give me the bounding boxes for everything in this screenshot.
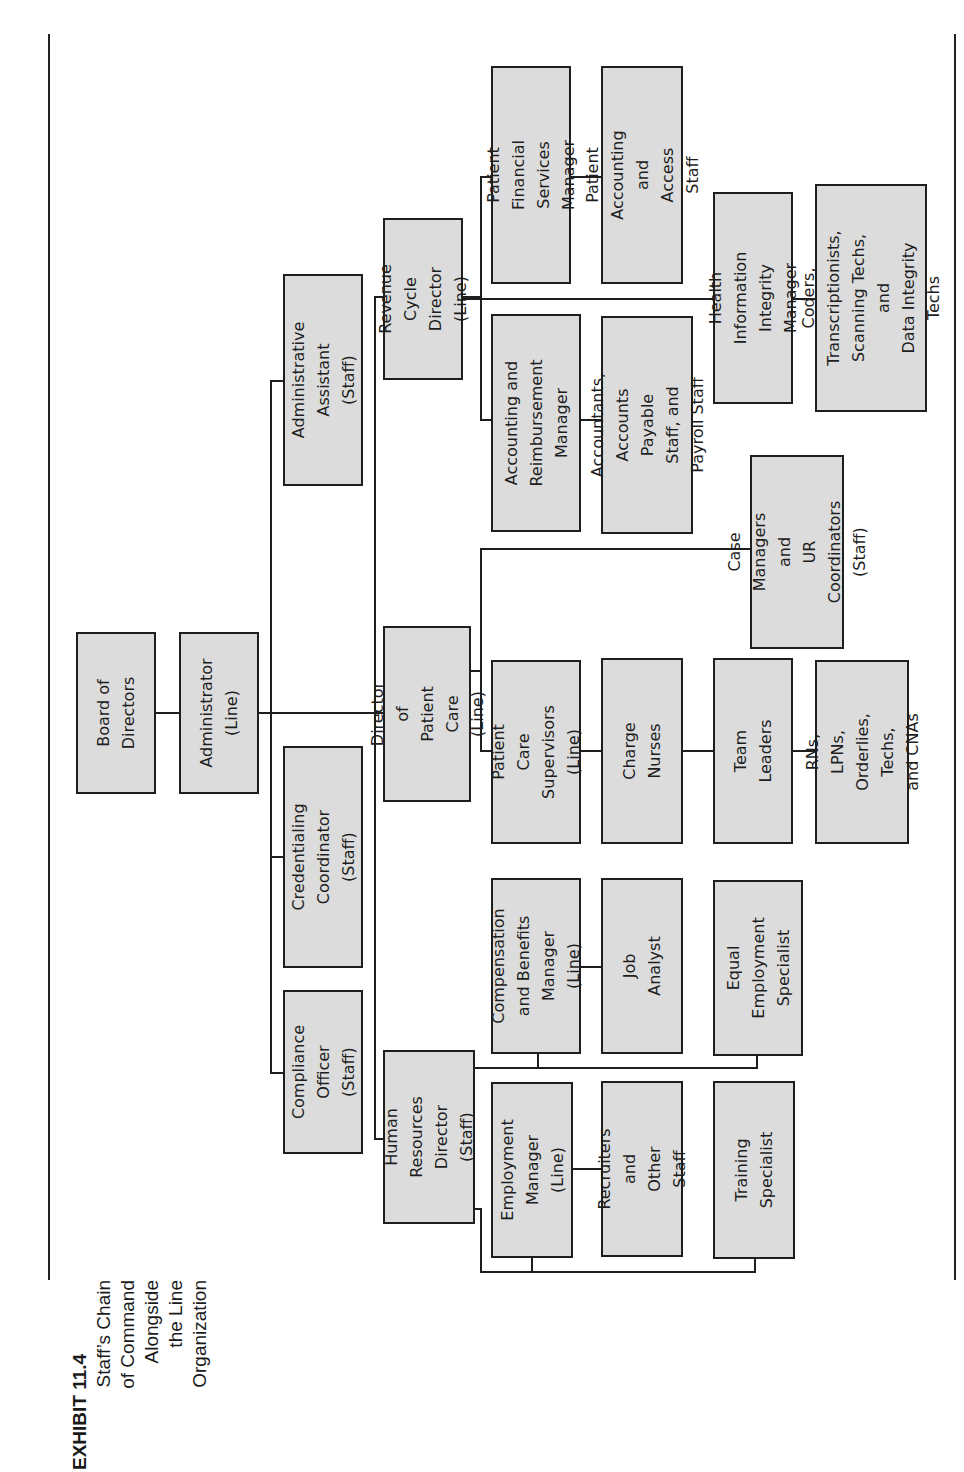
node-label: Patient Financial Services Manager xyxy=(481,140,581,210)
node-label: Training Specialist xyxy=(729,1132,779,1209)
connector xyxy=(480,548,752,550)
node-credentialing-coordinator: Credentialing Coordinator (Staff) xyxy=(283,746,363,968)
connector xyxy=(462,298,714,300)
node-rns-lpns-orderlies: RNs, LPNs, Orderlies, Techs, and CNAs xyxy=(815,660,909,844)
node-label: Team Leaders xyxy=(728,719,778,782)
connector xyxy=(754,1258,756,1272)
node-health-information-integrity-manager: Health Information Integrity Manager xyxy=(713,192,793,404)
node-label: Administrative Assistant (Staff) xyxy=(286,322,361,438)
node-label: Health Information Integrity Manager xyxy=(703,252,803,345)
node-label: Job Analyst xyxy=(617,936,667,995)
node-label: RNs, LPNs, Orderlies, Techs, and CNAs xyxy=(800,713,925,791)
node-accounting-reimbursement-manager: Accounting and Reimbursement Manager xyxy=(491,314,581,532)
node-label: Equal Employment Specialist xyxy=(721,917,796,1018)
exhibit-title: EXHIBIT 11.4 xyxy=(68,1280,92,1470)
connector xyxy=(474,1067,756,1069)
node-label: Board of Directors xyxy=(91,677,141,750)
exhibit-subtitle-line-4: the Line xyxy=(164,1280,188,1470)
node-label: Recruiters and Other Staff xyxy=(592,1128,692,1209)
node-label: Compensation and Benefits Manager (Line) xyxy=(486,908,586,1023)
node-charge-nurses: Charge Nurses xyxy=(601,658,683,844)
exhibit-subtitle-line-5: Organization xyxy=(188,1280,212,1470)
connector xyxy=(682,750,714,752)
exhibit-subtitle-line-2: of Command xyxy=(116,1280,140,1470)
node-team-leaders: Team Leaders xyxy=(713,658,793,844)
node-label: Credentialing Coordinator (Staff) xyxy=(286,803,361,910)
node-revenue-cycle-director: Revenue Cycle Director (Line) xyxy=(383,218,463,380)
node-administrator: Administrator (Line) xyxy=(179,632,259,794)
node-label: Human Resources Director (Staff) xyxy=(379,1096,479,1178)
connector xyxy=(270,380,272,1074)
exhibit-subtitle-line-3: Alongside xyxy=(140,1280,164,1470)
node-label: Director of Patient Care (Line) xyxy=(365,682,490,746)
node-patient-financial-services-manager: Patient Financial Services Manager xyxy=(491,66,571,284)
node-job-analyst: Job Analyst xyxy=(601,878,683,1054)
node-label: Administrator (Line) xyxy=(194,658,244,767)
node-compliance-officer: Compliance Officer (Staff) xyxy=(283,990,363,1154)
connector xyxy=(480,1208,482,1272)
node-patient-care-supervisors: Patient Care Supervisors (Line) xyxy=(491,660,581,844)
node-board-of-directors: Board of Directors xyxy=(76,632,156,794)
node-equal-employment-specialist: Equal Employment Specialist xyxy=(713,880,803,1056)
connector xyxy=(270,856,284,858)
node-label: Compliance Officer (Staff) xyxy=(286,1025,361,1119)
node-label: Accountants, Accounts Payable Staff, and… xyxy=(585,373,710,477)
node-case-managers-ur-coordinators: Case Managers and UR Coordinators (Staff… xyxy=(750,455,844,649)
exhibit-subtitle-line-1: Staff’s Chain xyxy=(92,1280,116,1470)
node-label: Revenue Cycle Director (Line) xyxy=(373,264,473,334)
node-director-of-patient-care: Director of Patient Care (Line) xyxy=(383,626,471,802)
node-recruiters-other-staff: Recruiters and Other Staff xyxy=(601,1081,683,1257)
connector xyxy=(531,1256,533,1272)
exhibit-caption: EXHIBIT 11.4 Staff’s Chain of Command Al… xyxy=(68,1280,212,1470)
node-administrative-assistant: Administrative Assistant (Staff) xyxy=(283,274,363,486)
connector xyxy=(270,380,284,382)
node-training-specialist: Training Specialist xyxy=(713,1081,795,1259)
node-label: Case Managers and UR Coordinators (Staff… xyxy=(722,501,872,604)
node-patient-accounting-access-staff: Patient Accounting and Access Staff xyxy=(601,66,683,284)
connector xyxy=(270,1072,284,1074)
right-frame-rule xyxy=(954,34,956,1280)
node-label: Patient Care Supervisors (Line) xyxy=(486,705,586,799)
connector xyxy=(474,1208,482,1210)
node-accountants-payable-payroll: Accountants, Accounts Payable Staff, and… xyxy=(601,316,693,534)
node-compensation-benefits-manager: Compensation and Benefits Manager (Line) xyxy=(491,878,581,1054)
node-label: Patient Accounting and Access Staff xyxy=(580,130,705,219)
node-label: Employment Manager (Line) xyxy=(495,1119,570,1220)
node-coders-transcriptionists: Coders, Transcriptionists, Scanning Tech… xyxy=(815,184,927,412)
connector xyxy=(480,1271,756,1273)
node-label: Charge Nurses xyxy=(617,722,667,779)
connector xyxy=(537,1052,539,1068)
left-frame-rule xyxy=(48,34,50,1280)
node-human-resources-director: Human Resources Director (Staff) xyxy=(383,1050,475,1224)
connector xyxy=(756,1054,758,1069)
node-label: Accounting and Reimbursement Manager xyxy=(499,359,574,486)
node-employment-manager: Employment Manager (Line) xyxy=(491,1082,573,1258)
node-label: Coders, Transcriptionists, Scanning Tech… xyxy=(796,230,946,365)
connector xyxy=(154,712,180,714)
